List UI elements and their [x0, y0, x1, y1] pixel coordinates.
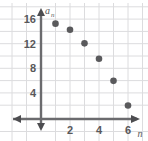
- data-point: [96, 55, 103, 62]
- y-tick-label-12: 12: [24, 38, 36, 50]
- data-point: [125, 102, 132, 109]
- x-axis-arrow-left: [13, 115, 21, 123]
- y-axis-arrow-up: [37, 8, 45, 16]
- x-axis-name: n: [138, 128, 143, 139]
- y-axis-name-base: a: [45, 5, 50, 16]
- y-tick-label-4: 4: [30, 87, 37, 99]
- x-tick-label-6: 6: [125, 124, 131, 136]
- data-point: [67, 27, 74, 34]
- grid-lines-horizontal: [0, 7, 148, 132]
- x-tick-label-2: 2: [67, 124, 73, 136]
- data-point: [52, 20, 59, 27]
- y-axis-arrow-down: [37, 123, 45, 131]
- x-axis-arrow-right: [131, 115, 140, 123]
- data-point: [81, 40, 88, 47]
- plot-canvas: 16 12 8 4 2 4 6 a n n: [0, 0, 148, 141]
- x-axis-tick-labels: 2 4 6: [67, 124, 131, 136]
- grid-lines: [0, 3, 148, 141]
- x-tick-label-4: 4: [96, 124, 103, 136]
- scatter-plot-figure: 16 12 8 4 2 4 6 a n n: [0, 0, 148, 141]
- y-tick-label-16: 16: [24, 13, 36, 25]
- data-point: [110, 78, 117, 85]
- data-points: [52, 20, 131, 108]
- y-axis-name-subscript: n: [51, 11, 55, 19]
- y-tick-label-8: 8: [30, 62, 36, 74]
